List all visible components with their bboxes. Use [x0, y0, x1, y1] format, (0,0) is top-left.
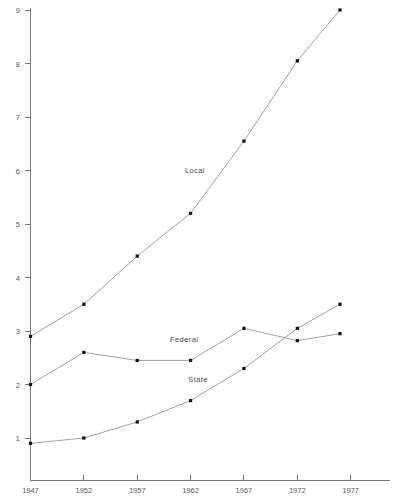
series-annotation-state: State — [188, 375, 208, 384]
y-tick-label: 1 — [16, 434, 20, 443]
x-tick-label: 1952 — [76, 486, 93, 495]
data-point-local-1952 — [82, 303, 85, 306]
x-tick-label: 1947 — [22, 486, 39, 495]
y-tick-label: 3 — [16, 327, 20, 336]
data-point-local-1957 — [136, 255, 139, 258]
data-point-local-1962 — [189, 212, 192, 215]
x-tick-label: 1957 — [129, 486, 146, 495]
data-point-local-1947 — [29, 335, 32, 338]
line-chart: 123456789 1947195219571962196719721977 L… — [0, 0, 394, 502]
data-point-state-1962 — [189, 399, 192, 402]
series-annotations-group: LocalFederalState — [170, 166, 208, 384]
data-point-local-1972 — [296, 59, 299, 62]
y-tick-label: 9 — [16, 6, 20, 15]
data-point-federal-1947 — [29, 383, 32, 386]
x-tick-label: 1962 — [182, 486, 199, 495]
x-tick-label: 1977 — [342, 486, 359, 495]
x-tick-label: 1967 — [236, 486, 253, 495]
data-point-local-1967 — [242, 139, 245, 142]
y-tick-label: 4 — [16, 274, 20, 283]
data-point-federal-1952 — [82, 351, 85, 354]
data-point-federal-1957 — [136, 359, 139, 362]
data-point-state-1972 — [296, 327, 299, 330]
y-tick-label: 6 — [16, 167, 20, 176]
data-point-federal-1962 — [189, 359, 192, 362]
y-tick-label: 5 — [16, 220, 20, 229]
data-point-state-1967 — [242, 367, 245, 370]
chart-axes — [31, 8, 391, 481]
y-tick-label: 7 — [16, 113, 20, 122]
y-axis-ticks: 123456789 — [16, 6, 31, 443]
series-annotation-federal: Federal — [170, 335, 198, 344]
data-point-state-1957 — [136, 420, 139, 423]
x-axis-ticks: 1947195219571962196719721977 — [22, 475, 359, 495]
data-point-federal-1967 — [242, 327, 245, 330]
y-tick-label: 8 — [16, 60, 20, 69]
x-tick-label: 1972 — [289, 486, 306, 495]
data-point-federal-1976 — [338, 332, 341, 335]
data-point-federal-1972 — [296, 339, 299, 342]
series-annotation-local: Local — [185, 166, 205, 175]
chart-canvas: 123456789 1947195219571962196719721977 L… — [0, 0, 394, 502]
data-point-state-1952 — [82, 436, 85, 439]
series-markers-group — [29, 8, 342, 445]
data-point-state-1947 — [29, 442, 32, 445]
y-tick-label: 2 — [16, 381, 20, 390]
series-lines-group — [31, 10, 341, 443]
data-point-local-1976 — [338, 8, 341, 11]
series-line-state — [31, 304, 341, 443]
data-point-state-1976 — [338, 303, 341, 306]
